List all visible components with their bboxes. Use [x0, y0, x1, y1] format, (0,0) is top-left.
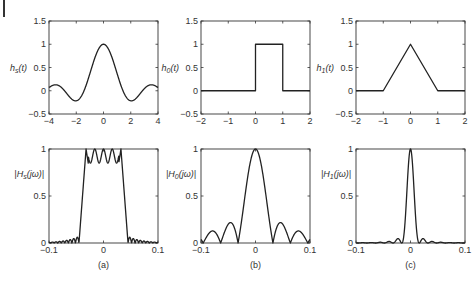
y-tick-label: 0: [41, 86, 46, 96]
data-curve: [201, 149, 310, 243]
y-tick-label: 0: [193, 86, 198, 96]
x-tick-label: 4: [155, 116, 160, 126]
panel-caption-a: (a): [98, 260, 109, 270]
data-curve: [356, 44, 465, 91]
x-tick-label: −1: [378, 116, 388, 126]
y-tick-label: 0.5: [185, 63, 198, 73]
x-tick-label: 0: [101, 245, 106, 255]
axes-frame: [356, 149, 465, 243]
x-tick-label: 0.1: [304, 245, 317, 255]
y-axis-label: h0(t): [162, 63, 179, 74]
y-tick-label: 0: [348, 238, 353, 248]
axes-frame: [356, 21, 465, 114]
y-tick-label: 1.5: [33, 16, 46, 26]
y-axis-label: hs(t): [10, 63, 27, 74]
y-tick-label: 0.5: [340, 63, 353, 73]
data-curve: [201, 44, 310, 91]
x-tick-label: 2: [307, 116, 312, 126]
panel-caption-c: (c): [405, 260, 416, 270]
y-tick-label: 0.5: [185, 191, 198, 201]
data-curve: [49, 44, 158, 101]
plot-c_bottom: −0.100.100.51|H1(jω)|: [321, 144, 471, 255]
x-tick-label: 0.1: [459, 245, 472, 255]
axes-frame: [49, 149, 158, 243]
axes-frame: [201, 149, 310, 243]
x-tick-label: 1: [435, 116, 440, 126]
data-curve: [356, 149, 465, 243]
y-tick-label: 1: [41, 39, 46, 49]
x-tick-label: 0: [408, 116, 413, 126]
y-tick-label: 1: [348, 144, 353, 154]
y-tick-label: 0: [41, 238, 46, 248]
axes-frame: [49, 21, 158, 114]
y-tick-label: 0: [193, 238, 198, 248]
x-tick-label: 2: [462, 116, 467, 126]
x-tick-label: 0: [253, 245, 258, 255]
panel-caption-b: (b): [250, 260, 261, 270]
plot-b_bottom: −0.100.100.51|H0(jω)|: [166, 144, 316, 255]
y-axis-label: |H0(jω)|: [166, 169, 196, 180]
y-axis-label: h1(t): [317, 63, 334, 74]
x-tick-label: 0: [101, 116, 106, 126]
x-tick-label: −2: [71, 116, 81, 126]
plot-a_top: −4−2024−0.500.511.5hs(t): [10, 16, 161, 126]
plot-b_top: −2−1012−0.500.511.5h0(t): [162, 16, 313, 126]
y-axis-label: |H1(jω)|: [321, 169, 351, 180]
y-tick-label: 0: [348, 86, 353, 96]
y-tick-label: 1.5: [340, 16, 353, 26]
y-tick-label: 0.5: [340, 191, 353, 201]
plot-a_bottom: −0.100.100.51|Hs(jω)|: [14, 144, 164, 255]
y-tick-label: 1: [348, 39, 353, 49]
x-tick-label: 2: [128, 116, 133, 126]
y-tick-label: −0.5: [335, 109, 353, 119]
y-tick-label: −0.5: [28, 109, 46, 119]
figure-canvas: −4−2024−0.500.511.5hs(t)−2−1012−0.500.51…: [0, 0, 476, 283]
y-tick-label: −0.5: [180, 109, 198, 119]
x-tick-label: 0.1: [152, 245, 165, 255]
y-tick-label: 1: [193, 144, 198, 154]
x-tick-label: 0: [253, 116, 258, 126]
y-tick-label: 1.5: [185, 16, 198, 26]
x-tick-label: −1: [223, 116, 233, 126]
y-tick-label: 1: [41, 144, 46, 154]
y-tick-label: 1: [193, 39, 198, 49]
y-tick-label: 0.5: [33, 63, 46, 73]
x-tick-label: 1: [280, 116, 285, 126]
y-axis-label: |Hs(jω)|: [14, 169, 44, 180]
data-curve: [49, 149, 158, 243]
plot-c_top: −2−1012−0.500.511.5h1(t): [317, 16, 468, 126]
x-tick-label: 0: [408, 245, 413, 255]
y-tick-label: 0.5: [33, 191, 46, 201]
